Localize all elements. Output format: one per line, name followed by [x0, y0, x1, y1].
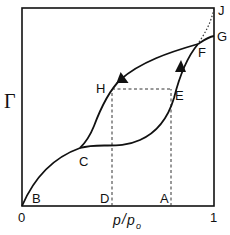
- x-axis-label-subscript: o: [136, 221, 141, 231]
- adsorption-curve: [22, 44, 198, 206]
- label-g: G: [217, 29, 227, 44]
- x-tick-1: 1: [210, 210, 217, 225]
- y-axis-label: Γ: [4, 90, 16, 112]
- label-a: A: [160, 191, 169, 206]
- x-axis-label: p / p o: [112, 211, 141, 231]
- upper-branch-curve: [198, 36, 214, 44]
- label-f: F: [198, 45, 206, 60]
- label-e: E: [175, 88, 184, 103]
- label-b: B: [32, 191, 41, 206]
- isotherm-diagram: B C D A H E F G J Γ 0 1 p / p o: [0, 0, 230, 235]
- label-c: C: [79, 154, 88, 169]
- label-d: D: [100, 191, 109, 206]
- x-tick-0: 0: [18, 210, 25, 225]
- plot-frame: [22, 8, 214, 206]
- x-axis-label-p0: p: [126, 212, 135, 228]
- label-j: J: [218, 3, 225, 18]
- label-h: H: [96, 81, 105, 96]
- desorption-arrow-icon: [115, 71, 129, 85]
- x-axis-label-p: p: [112, 212, 121, 228]
